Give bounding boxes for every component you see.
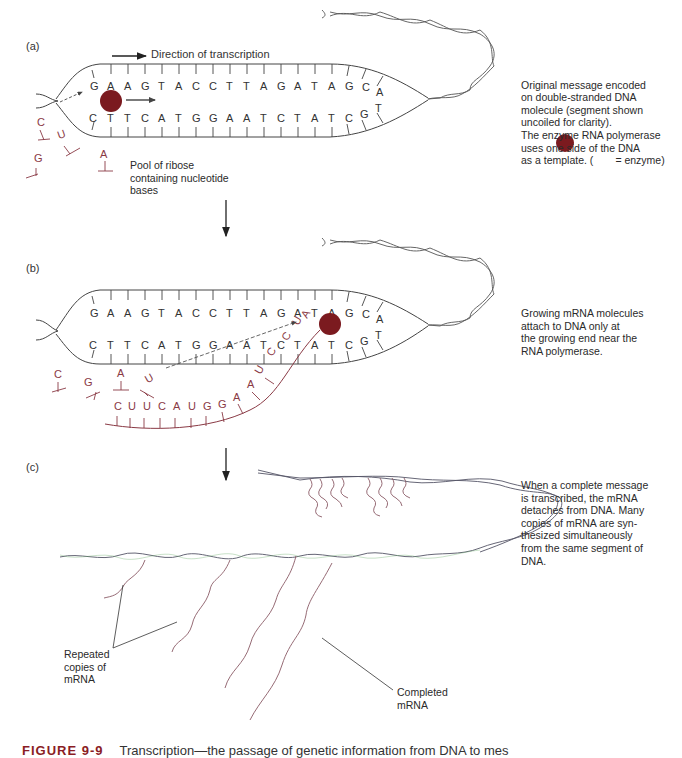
svg-text:A: A xyxy=(311,112,319,124)
svg-text:G: G xyxy=(90,307,99,319)
svg-text:G: G xyxy=(345,80,354,92)
svg-text:C: C xyxy=(37,116,45,128)
svg-text:U: U xyxy=(128,400,136,412)
figure-caption: FIGURE 9-9Transcription—the passage of g… xyxy=(22,743,509,758)
rna-polymerase-enzyme-icon xyxy=(319,313,341,335)
svg-text:T: T xyxy=(311,80,318,92)
svg-text:T: T xyxy=(175,339,182,351)
svg-text:C: C xyxy=(362,81,370,93)
svg-text:A: A xyxy=(243,339,251,351)
svg-text:G: G xyxy=(34,152,43,164)
panel-c-note: When a complete message is transcribed, … xyxy=(521,479,648,567)
svg-text:C: C xyxy=(89,339,97,351)
panel-b-bottom-strand: CTTC ATGG AATC TATC GT xyxy=(89,329,382,351)
svg-text:A: A xyxy=(311,339,319,351)
svg-text:U: U xyxy=(188,400,196,412)
svg-text:T: T xyxy=(226,80,233,92)
svg-text:U: U xyxy=(56,127,68,141)
svg-text:T: T xyxy=(243,307,250,319)
panel-c-diagram xyxy=(60,470,562,720)
svg-text:G: G xyxy=(209,339,218,351)
repeated-copies-label: Repeated copies of mRNA xyxy=(64,648,110,686)
panel-a-note-suffix: = enzyme) xyxy=(615,154,664,166)
svg-text:C: C xyxy=(141,339,149,351)
svg-text:C: C xyxy=(54,368,62,380)
svg-text:G: G xyxy=(209,112,218,124)
svg-text:C: C xyxy=(114,400,122,412)
svg-text:T: T xyxy=(124,339,131,351)
svg-text:G: G xyxy=(277,307,286,319)
rna-polymerase-enzyme-icon xyxy=(100,90,122,112)
svg-text:A: A xyxy=(107,307,115,319)
svg-text:G: G xyxy=(345,307,354,319)
svg-text:A: A xyxy=(260,80,268,92)
svg-text:G: G xyxy=(192,112,201,124)
svg-text:A: A xyxy=(158,112,166,124)
svg-text:T: T xyxy=(158,307,165,319)
svg-text:G: G xyxy=(218,398,227,410)
svg-text:G: G xyxy=(360,335,369,347)
svg-text:A: A xyxy=(260,307,268,319)
panel-b-note: Growing mRNA molecules attach to DNA onl… xyxy=(521,307,644,357)
svg-text:A: A xyxy=(226,112,234,124)
svg-text:G: G xyxy=(90,80,99,92)
svg-text:C: C xyxy=(277,339,285,351)
svg-text:T: T xyxy=(375,102,382,114)
figure-number: FIGURE 9-9 xyxy=(22,743,104,758)
svg-text:T: T xyxy=(294,339,301,351)
svg-text:U: U xyxy=(143,400,151,412)
svg-text:A: A xyxy=(247,378,255,390)
svg-text:U: U xyxy=(252,363,266,376)
svg-text:G: G xyxy=(84,376,93,388)
svg-text:T: T xyxy=(124,112,131,124)
svg-text:T: T xyxy=(107,339,114,351)
svg-text:A: A xyxy=(124,307,132,319)
svg-text:C: C xyxy=(209,307,217,319)
svg-text:T: T xyxy=(107,112,114,124)
svg-text:A: A xyxy=(100,148,108,160)
panel-b-free-nucleotides: C G A U xyxy=(52,367,155,400)
svg-text:A: A xyxy=(243,112,251,124)
svg-text:C: C xyxy=(345,112,353,124)
svg-text:A: A xyxy=(294,80,302,92)
svg-text:C: C xyxy=(192,307,200,319)
pool-label: Pool of ribose containing nucleotide bas… xyxy=(130,159,229,197)
svg-text:T: T xyxy=(294,112,301,124)
svg-text:A: A xyxy=(233,391,241,403)
svg-text:C: C xyxy=(209,80,217,92)
svg-text:C: C xyxy=(141,112,149,124)
svg-text:U: U xyxy=(143,371,156,385)
svg-text:C: C xyxy=(192,80,200,92)
svg-text:T: T xyxy=(328,112,335,124)
panel-a-free-nucleotides: C U G A xyxy=(26,116,113,178)
svg-text:A: A xyxy=(376,86,384,98)
svg-text:G: G xyxy=(141,307,150,319)
svg-text:A: A xyxy=(175,307,183,319)
panel-b-diagram: GAAG TACC TTAG ATAG CA CTTC ATGG AATC TA… xyxy=(36,238,494,480)
panel-a-diagram: GAAG TACC TTAG ATAG CA CTTC ATGG AATC TA… xyxy=(26,10,494,236)
svg-text:T: T xyxy=(243,80,250,92)
svg-text:T: T xyxy=(375,329,382,341)
svg-text:T: T xyxy=(226,307,233,319)
svg-text:A: A xyxy=(173,400,181,412)
panel-a-bottom-strand: CTTC ATGG AATC TATC GT xyxy=(89,102,382,124)
svg-text:A: A xyxy=(175,80,183,92)
svg-text:C: C xyxy=(362,308,370,320)
svg-text:C: C xyxy=(345,339,353,351)
panel-a-note: Original message encoded on double-stran… xyxy=(521,66,665,167)
panel-a-top-strand: GAAG TACC TTAG ATAG CA xyxy=(90,80,384,98)
svg-text:C: C xyxy=(277,112,285,124)
svg-text:C: C xyxy=(89,112,97,124)
svg-text:A: A xyxy=(158,339,166,351)
svg-text:A: A xyxy=(328,80,336,92)
svg-text:T: T xyxy=(175,112,182,124)
svg-text:T: T xyxy=(158,80,165,92)
svg-text:A: A xyxy=(117,367,125,379)
completed-mrna-label: Completed mRNA xyxy=(397,686,448,711)
svg-text:G: G xyxy=(360,108,369,120)
svg-text:T: T xyxy=(311,307,318,319)
svg-text:G: G xyxy=(141,80,150,92)
svg-text:A: A xyxy=(124,80,132,92)
figure-caption-text: Transcription—the passage of genetic inf… xyxy=(120,743,509,758)
panel-a-note-text: Original message encoded on double-stran… xyxy=(521,79,660,167)
